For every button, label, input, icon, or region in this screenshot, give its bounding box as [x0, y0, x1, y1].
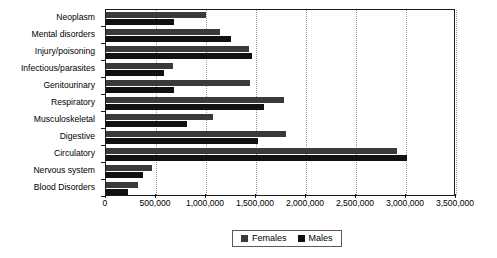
legend-swatch-icon: [298, 235, 305, 242]
legend-swatch-icon: [241, 235, 248, 242]
y-axis-label: Mental disorders: [31, 30, 95, 39]
legend-entry-females[interactable]: Females: [241, 233, 287, 243]
bar-females: [106, 12, 206, 18]
chart-legend: FemalesMales: [232, 230, 342, 247]
bar-group: [106, 46, 454, 59]
bar-males: [106, 104, 264, 110]
bar-females: [106, 29, 220, 35]
legend-label: Females: [252, 233, 287, 243]
y-axis-labels: NeoplasmMental disordersInjury/poisoning…: [0, 9, 101, 196]
bar-females: [106, 131, 286, 137]
legend-label: Males: [309, 233, 333, 243]
bar-males: [106, 189, 128, 195]
bar-group: [106, 63, 454, 76]
x-axis-label: 2,000,000: [286, 198, 324, 208]
bar-males: [106, 172, 143, 178]
x-axis-label: 0: [103, 198, 108, 208]
bar-males: [106, 36, 231, 42]
bar-males: [106, 19, 174, 25]
y-axis-label: Respiratory: [51, 98, 95, 107]
bar-males: [106, 155, 407, 161]
x-axis-label: 1,500,000: [236, 198, 274, 208]
bar-group: [106, 80, 454, 93]
bar-group: [106, 131, 454, 144]
bar-group: [106, 114, 454, 127]
bar-group: [106, 97, 454, 110]
y-axis-label: Blood Disorders: [34, 183, 95, 192]
x-axis-label: 3,500,000: [436, 198, 474, 208]
bar-group: [106, 12, 454, 25]
bar-males: [106, 87, 174, 93]
y-axis-label: Musculoskeletal: [34, 115, 95, 124]
y-axis-label: Genitourinary: [43, 81, 95, 90]
x-axis-label: 2,500,000: [336, 198, 374, 208]
y-axis-label: Nervous system: [33, 166, 95, 175]
bar-group: [106, 182, 454, 195]
x-axis-label: 3,000,000: [386, 198, 424, 208]
y-axis-label: Infectious/parasites: [21, 64, 95, 73]
bar-males: [106, 121, 187, 127]
bar-females: [106, 63, 173, 69]
y-axis-label: Neoplasm: [56, 13, 95, 22]
bar-group: [106, 165, 454, 178]
bar-females: [106, 165, 152, 171]
y-axis-label: Injury/poisoning: [35, 47, 95, 56]
y-axis-label: Digestive: [60, 132, 95, 141]
x-axis-label: 1,000,000: [186, 198, 224, 208]
gridline: [456, 10, 457, 195]
bar-females: [106, 182, 138, 188]
bar-females: [106, 97, 284, 103]
x-axis-label: 500,000: [139, 198, 170, 208]
bar-males: [106, 53, 252, 59]
bar-females: [106, 46, 249, 52]
y-axis-label: Circulatory: [54, 149, 95, 158]
bar-chart: NeoplasmMental disordersInjury/poisoning…: [0, 0, 497, 258]
bar-females: [106, 80, 250, 86]
x-axis-labels: 0500,0001,000,0001,500,0002,000,0002,500…: [0, 198, 497, 214]
bar-males: [106, 138, 258, 144]
bar-rows: [106, 10, 454, 195]
plot-area: [105, 9, 455, 196]
bar-males: [106, 70, 164, 76]
legend-entry-males[interactable]: Males: [298, 233, 333, 243]
bar-females: [106, 114, 213, 120]
bar-females: [106, 148, 397, 154]
bar-group: [106, 29, 454, 42]
bar-group: [106, 148, 454, 161]
